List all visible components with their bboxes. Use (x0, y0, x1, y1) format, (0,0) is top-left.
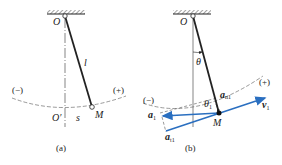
pivot-label: O (180, 16, 187, 27)
caption-a: (a) (56, 143, 66, 153)
ceiling-hatch (47, 10, 85, 14)
pendulum-rod (65, 16, 92, 107)
mass-point-icon (217, 111, 222, 116)
pivot-label: O (53, 16, 60, 27)
theta-arc (193, 52, 202, 53)
length-label: l (84, 57, 87, 68)
pendulum-diagrams: O l (−) (+) O′ s M (a) O θ (−) (+) an1 θ… (0, 0, 282, 165)
negative-direction-label: (−) (143, 95, 154, 105)
arc-path (12, 96, 126, 108)
pivot-icon (191, 14, 195, 18)
caption-b: (b) (185, 143, 196, 153)
negative-direction-label: (−) (12, 85, 23, 95)
a-n1-label: an1 (220, 89, 231, 100)
origin-label: O′ (52, 112, 62, 123)
figure-b: O θ (−) (+) an1 θ1 a1 at1 v1 M (b) (143, 10, 270, 153)
pendulum-figure: O l (−) (+) O′ s M (a) O θ (−) (+) an1 θ… (0, 0, 282, 165)
arc-path (143, 76, 263, 109)
figure-a: O l (−) (+) O′ s M (a) (12, 10, 126, 153)
helper-line (162, 117, 166, 132)
a1-label: a1 (148, 109, 156, 121)
mass-point-icon (90, 105, 95, 110)
positive-direction-label: (+) (259, 77, 270, 87)
mass-label: M (212, 117, 222, 128)
theta-label: θ (196, 56, 201, 67)
mass-label: M (94, 109, 104, 120)
positive-direction-label: (+) (113, 85, 124, 95)
v1-label: v1 (262, 99, 269, 111)
a-t1-label: at1 (165, 131, 175, 143)
ceiling-hatch (173, 10, 211, 14)
arc-length-label: s (76, 112, 80, 123)
pivot-icon (63, 14, 67, 18)
